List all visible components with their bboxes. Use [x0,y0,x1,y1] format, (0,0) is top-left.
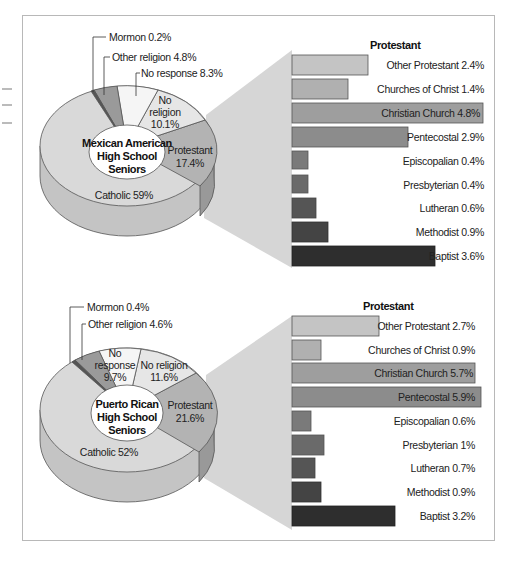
slice-label: No [109,347,122,359]
bar-label: Churches of Christ 1.4% [377,83,484,95]
bar-label: Other Protestant 2.4% [386,59,484,71]
bar-label: Christian Church 4.8% [381,107,480,119]
callout-no-response: No response 8.3% [141,67,223,79]
slice-label: religion [149,106,181,118]
bar-chart-title: Protestant [370,39,421,51]
slice-label: response [95,359,136,371]
callout-mormon: Mormon 0.2% [109,31,171,43]
bar-label: Methodist 0.9% [407,486,475,498]
top-section: Mexican American High School Seniors Mor… [40,31,484,268]
bar-label: Episcopalian 0.4% [403,155,484,167]
bar-label: Pentecostal 5.9% [398,391,475,403]
slice-label: 10.1% [151,118,179,130]
callout-other-religion: Other religion 4.8% [112,51,196,63]
bar-label: Pentecostal 2.9% [407,131,484,143]
pie-title-line: High School [97,150,157,162]
pie-title-line: Mexican American [82,137,172,149]
slice-label: 9.7% [104,371,127,383]
pie-title-line: High School [97,411,157,423]
bar-label: Christian Church 5.7% [374,367,473,379]
bar-label: Presbyterian 0.4% [403,179,484,191]
bar-label: Lutheran 0.6% [420,202,484,214]
slice-label: Protestant [168,399,213,411]
bar-label: Churches of Christ 0.9% [368,344,475,356]
bar-label: Baptist 3.6% [429,250,484,262]
pie-title-line: Puerto Rican [95,398,159,410]
bottom-section: Puerto Rican High School Seniors Mormon … [40,300,481,530]
pie-title-line: Seniors [108,163,146,175]
slice-label: 21.6% [176,412,204,424]
slice-label: Catholic 52% [80,446,138,458]
callout-mormon: Mormon 0.4% [87,301,149,313]
bar-label: Presbyterian 1% [402,439,475,451]
bar-label: Episcopalian 0.6% [394,415,475,427]
chart-canvas: Mexican American High School Seniors Mor… [0,0,512,563]
slice-label: No [159,94,172,106]
bar-chart-title: Protestant [363,300,414,312]
bar-label: Baptist 3.2% [420,510,475,522]
slice-label: 11.6% [150,371,178,383]
pie-title-line: Seniors [108,424,146,436]
callout-other-religion: Other religion 4.6% [88,318,172,330]
bar-label: Lutheran 0.7% [411,462,475,474]
callout-line [82,324,86,360]
slice-label: Catholic 59% [95,189,153,201]
slice-label: 17.4% [176,157,204,169]
connector-wedge [204,316,292,530]
slice-label: No religion [141,359,188,371]
slice-label: Protestant [168,144,213,156]
bar-label: Methodist 0.9% [416,226,484,238]
connector-wedge [204,50,292,268]
bar-label: Other Protestant 2.7% [377,320,475,332]
